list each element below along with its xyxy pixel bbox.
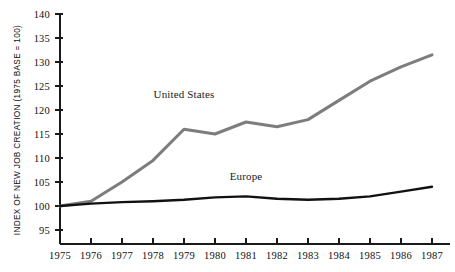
y-tick-label: 135 [34,33,50,44]
y-axis-title: INDEX OF NEW JOB CREATION (1975 BASE = 1… [13,25,22,235]
x-tick-label: 1985 [359,250,381,261]
y-tick-label: 105 [34,177,50,188]
y-tick-label: 115 [34,129,50,140]
series-label-united-states: United States [154,88,215,100]
x-tick-label: 1978 [142,250,164,261]
y-axis-ticks: 95100105110115120125130135140 [34,9,63,236]
x-tick-label: 1984 [328,250,350,261]
y-tick-label: 140 [34,9,50,20]
y-tick-label: 95 [39,225,50,236]
x-tick-label: 1977 [111,250,133,261]
series-line-europe [60,187,432,206]
y-tick-label: 130 [34,57,50,68]
x-axis-ticks: 1975197619771978197919801981198219831984… [49,238,443,261]
y-axis-title-label: INDEX OF NEW JOB CREATION (1975 BASE = 1… [13,25,22,235]
line-chart: INDEX OF NEW JOB CREATION (1975 BASE = 1… [0,0,455,272]
y-tick-label: 100 [34,201,50,212]
y-tick-label: 110 [34,153,50,164]
series-annotations: United StatesEurope [154,88,263,182]
x-tick-label: 1981 [235,250,257,261]
chart-figure: INDEX OF NEW JOB CREATION (1975 BASE = 1… [0,0,455,272]
x-tick-label: 1982 [266,250,288,261]
series-line-united-states [60,55,432,206]
x-tick-label: 1975 [49,250,71,261]
x-tick-label: 1983 [297,250,319,261]
x-tick-label: 1986 [390,250,412,261]
data-series-group [60,55,432,206]
x-tick-label: 1976 [80,250,102,261]
series-label-europe: Europe [230,170,263,182]
y-tick-label: 125 [34,81,50,92]
x-tick-label: 1979 [173,250,195,261]
y-tick-label: 120 [34,105,50,116]
x-tick-label: 1987 [421,250,443,261]
x-tick-label: 1980 [204,250,226,261]
